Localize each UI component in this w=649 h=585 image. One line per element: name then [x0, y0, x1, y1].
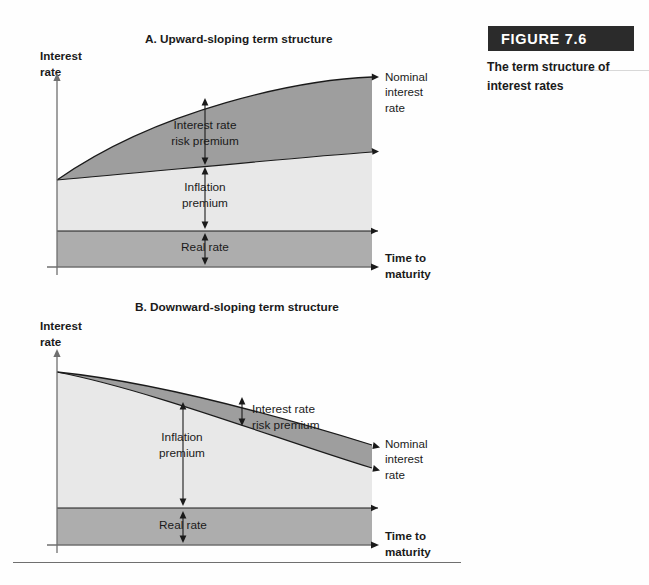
- figure-banner: FIGURE 7.6: [488, 26, 634, 51]
- panel-a-x-axis-label: Time tomaturity: [385, 250, 431, 281]
- panel-b-x-axis-label: Time tomaturity: [385, 528, 431, 559]
- figure-page: FIGURE 7.6 The term structure of interes…: [0, 0, 649, 585]
- panel-a-inflation-curve-arrow: [372, 148, 379, 155]
- panel-a-risk-premium-arrow-up: [202, 98, 209, 105]
- panel-a-real-rate-label: Real rate: [170, 240, 240, 256]
- panel-b-x-axis-arrow: [371, 541, 379, 548]
- panel-b-real-rate-label: Real rate: [148, 518, 218, 534]
- panel-a: A. Upward-sloping term structure Interes…: [0, 0, 470, 290]
- panel-b-risk-premium-label: Interest raterisk premium: [252, 402, 364, 433]
- figure-caption: The term structure of interest rates: [487, 58, 637, 96]
- panel-a-nominal-curve-arrow: [372, 74, 379, 81]
- panel-b-nominal-curve-arrow: [372, 442, 380, 449]
- panel-b-inflation-curve-arrow: [372, 465, 380, 472]
- panel-b-real-rate-line-arrow: [371, 505, 378, 511]
- panel-a-real-rate-line-arrow: [371, 228, 378, 234]
- panel-b-y-axis-arrow: [53, 349, 60, 357]
- panel-a-risk-premium-label: Interest raterisk premium: [150, 118, 260, 149]
- panel-a-y-axis-arrow: [53, 73, 60, 81]
- figure-number-label: FIGURE 7.6: [488, 31, 587, 47]
- panel-a-nominal-rate-label: Nominalinterestrate: [385, 69, 428, 115]
- panel-b-inflation-premium-label: Inflationpremium: [132, 430, 232, 461]
- panel-b: B. Downward-sloping term structure Inter…: [0, 290, 470, 570]
- panel-a-x-axis-arrow: [371, 263, 379, 270]
- panel-b-nominal-rate-label: Nominalinterestrate: [385, 436, 428, 482]
- panel-b-risk-premium-arrow-up: [239, 397, 246, 404]
- panel-a-inflation-premium-label: Inflationpremium: [155, 180, 255, 211]
